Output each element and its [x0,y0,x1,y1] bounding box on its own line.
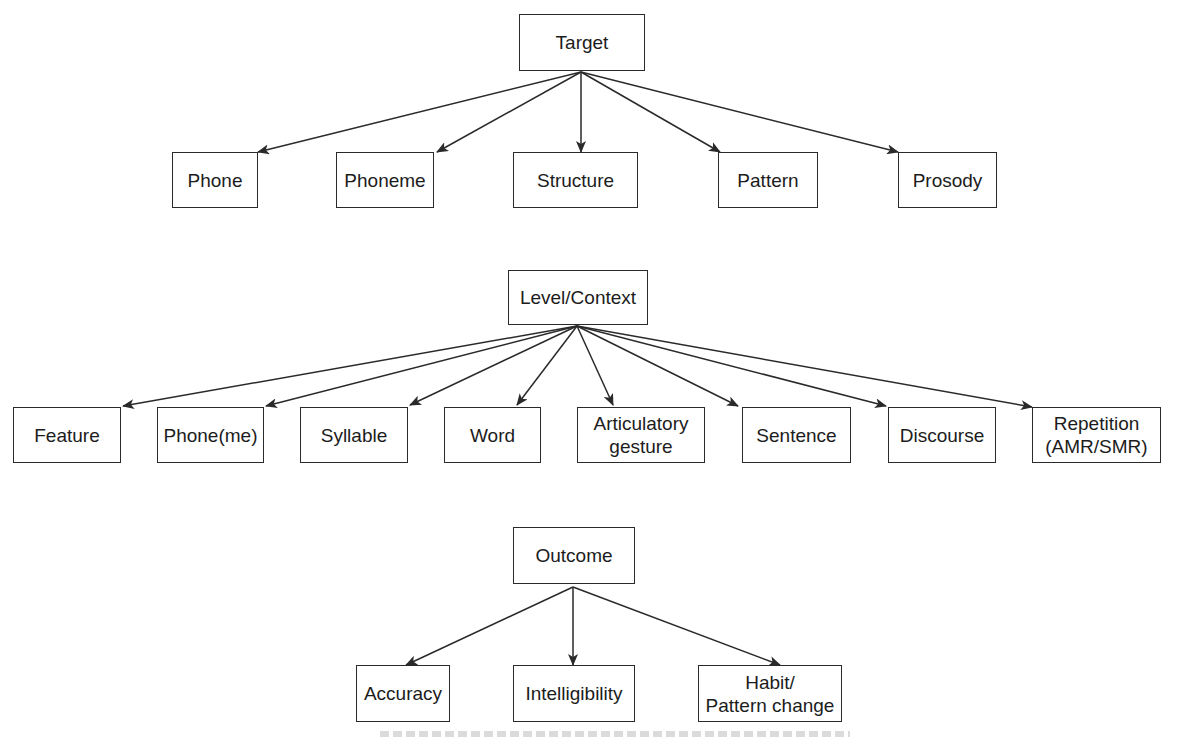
node-label: Pattern [737,169,798,192]
node-level-context: Level/Context [508,270,648,325]
node-target: Target [519,14,645,71]
node-label: Discourse [900,424,984,447]
node-label: Feature [34,424,99,447]
node-label: Word [470,424,515,447]
node-label: Repetition (AMR/SMR) [1045,412,1147,458]
node-word: Word [444,407,541,463]
node-prosody: Prosody [898,152,997,208]
arrow-level-context-to-repetition [577,326,1032,407]
arrow-level-context-to-word [517,326,577,405]
arrow-level-context-to-phoneme-paren [266,326,577,406]
arrow-level-context-to-syllable [410,326,577,405]
node-structure: Structure [513,152,638,208]
node-label: Intelligibility [525,682,622,705]
node-label: Articulatory gesture [593,412,688,458]
arrow-level-context-to-discourse [577,326,886,406]
node-label: Structure [537,169,614,192]
node-label: Phone [188,169,243,192]
node-pattern: Pattern [718,152,818,208]
node-label: Target [556,31,609,54]
truncated-caption [380,731,850,737]
arrow-target-to-phone [258,72,581,152]
arrow-target-to-phoneme [437,72,581,152]
arrow-level-context-to-sentence [577,326,738,406]
node-phoneme: Phoneme [336,152,434,208]
node-intelligibility: Intelligibility [513,665,635,722]
node-syllable: Syllable [300,407,408,463]
arrow-level-context-to-feature [123,326,577,406]
node-label: Accuracy [364,682,442,705]
node-accuracy: Accuracy [356,665,450,722]
arrow-level-context-to-articulatory-gesture [577,326,613,405]
node-phone: Phone [172,152,258,208]
node-sentence: Sentence [742,407,851,463]
connector-layer [0,0,1177,737]
node-outcome: Outcome [513,527,635,584]
arrow-target-to-pattern [581,72,720,152]
arrow-target-to-prosody [581,72,898,152]
node-label: Habit/ Pattern change [706,671,835,717]
node-label: Sentence [756,424,836,447]
node-feature: Feature [13,407,121,463]
node-discourse: Discourse [888,407,996,463]
node-label: Syllable [321,424,388,447]
node-repetition: Repetition (AMR/SMR) [1032,407,1161,463]
node-label: Level/Context [520,286,636,309]
node-articulatory-gesture: Articulatory gesture [577,407,705,463]
arrow-outcome-to-accuracy [406,587,573,665]
node-label: Phoneme [344,169,425,192]
node-label: Outcome [535,544,612,567]
node-label: Phone(me) [164,424,258,447]
node-phoneme-paren: Phone(me) [157,407,264,463]
node-label: Prosody [913,169,983,192]
node-habit-pattern-change: Habit/ Pattern change [698,665,842,722]
arrow-outcome-to-habit-pattern-change [573,587,780,665]
